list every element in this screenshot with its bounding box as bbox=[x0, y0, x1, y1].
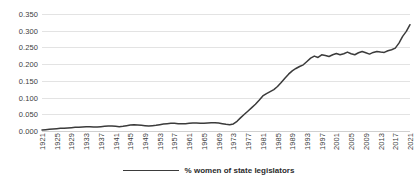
x-axis-tick-label: 1985 bbox=[274, 133, 283, 150]
y-axis-tick-label: 0.350 bbox=[19, 10, 38, 19]
x-axis-tick-label: 1973 bbox=[229, 133, 238, 150]
y-axis-labels: 0.0000.0500.1000.1500.2000.2500.3000.350 bbox=[0, 0, 38, 186]
y-axis-tick-label: 0.200 bbox=[19, 60, 38, 69]
x-axis-tick-label: 1949 bbox=[141, 133, 150, 150]
y-axis-tick-label: 0.100 bbox=[19, 93, 38, 102]
y-axis-tick-label: 0.300 bbox=[19, 26, 38, 35]
legend-label: % women of state legislators bbox=[185, 166, 295, 175]
x-axis-tick-label: 1937 bbox=[97, 133, 106, 150]
x-axis-tick-label: 1929 bbox=[67, 133, 76, 150]
x-axis-tick-label: 1981 bbox=[259, 133, 268, 150]
gridline bbox=[42, 131, 410, 132]
y-axis-tick-label: 0.150 bbox=[19, 76, 38, 85]
x-axis-labels: 1921192519291933193719411945194919531957… bbox=[42, 133, 410, 167]
x-axis-tick-label: 1965 bbox=[200, 133, 209, 150]
x-axis-tick-label: 1997 bbox=[318, 133, 327, 150]
line-chart: 0.0000.0500.1000.1500.2000.2500.3000.350… bbox=[0, 0, 417, 186]
series-line-pct-women-state-legislators bbox=[42, 14, 410, 131]
x-axis-tick-label: 2013 bbox=[377, 133, 386, 150]
x-axis-tick-label: 1925 bbox=[53, 133, 62, 150]
x-axis-tick-label: 1977 bbox=[244, 133, 253, 150]
x-axis-tick-label: 2001 bbox=[332, 133, 341, 150]
x-axis-tick-label: 1961 bbox=[185, 133, 194, 150]
x-axis-tick-label: 1953 bbox=[156, 133, 165, 150]
x-axis-tick-label: 2021 bbox=[406, 133, 415, 150]
x-axis-tick-label: 1921 bbox=[38, 133, 47, 150]
x-axis-tick-label: 2005 bbox=[347, 133, 356, 150]
x-axis-tick-label: 1933 bbox=[82, 133, 91, 150]
x-axis-tick-label: 2009 bbox=[362, 133, 371, 150]
x-axis-tick-label: 1945 bbox=[126, 133, 135, 150]
y-axis-tick-label: 0.050 bbox=[19, 110, 38, 119]
chart-legend: % women of state legislators bbox=[0, 166, 417, 175]
x-axis-tick-label: 1957 bbox=[170, 133, 179, 150]
plot-area bbox=[42, 14, 410, 131]
y-axis-tick-label: 0.250 bbox=[19, 43, 38, 52]
x-axis-tick-label: 1969 bbox=[215, 133, 224, 150]
x-axis-tick-label: 2017 bbox=[391, 133, 400, 150]
y-axis-tick-label: 0.000 bbox=[19, 127, 38, 136]
x-axis-tick-label: 1989 bbox=[288, 133, 297, 150]
x-axis-tick-label: 1941 bbox=[112, 133, 121, 150]
x-axis-tick-label: 1993 bbox=[303, 133, 312, 150]
legend-line-swatch bbox=[123, 170, 179, 171]
